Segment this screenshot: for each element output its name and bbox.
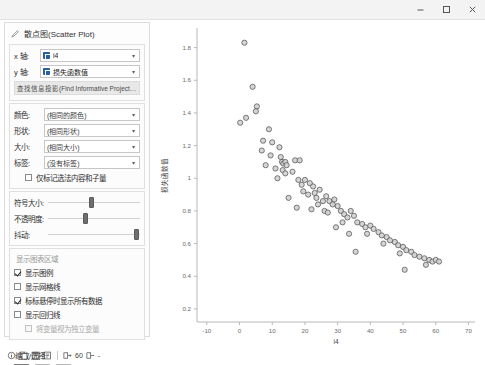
scatter-point[interactable] (364, 231, 369, 236)
scatter-point[interactable] (436, 259, 441, 264)
scatter-point[interactable] (417, 254, 422, 259)
label-only-selected-checkbox[interactable]: 仅标记选法内容和子量 (25, 172, 140, 183)
minimize-icon[interactable] (407, 0, 433, 19)
x-tick-label: 20 (301, 327, 308, 334)
x-tick-label: 40 (367, 327, 374, 334)
scatter-point[interactable] (259, 148, 264, 153)
save-icon[interactable] (31, 351, 40, 360)
scatter-point[interactable] (325, 210, 330, 215)
scatter-point[interactable] (335, 203, 340, 208)
scatter-point[interactable] (423, 262, 428, 267)
y-tick-label: 0.2 (182, 305, 191, 312)
symbol-size-slider[interactable] (48, 197, 140, 208)
scatter-plot-area[interactable]: 0.20.40.60.811.21.41.61.8-10010203040506… (155, 22, 481, 358)
slider-handle[interactable] (134, 229, 139, 240)
chevron-down-icon: ▾ (129, 144, 137, 150)
scatter-point[interactable] (345, 215, 350, 220)
find-informative-projections-button[interactable]: 查找信息投影(Find Informative Projections) (14, 81, 140, 95)
scatter-point[interactable] (243, 115, 248, 120)
show-regression-line-checkbox[interactable]: 显示回归线 (14, 309, 140, 320)
color-select[interactable]: (相同的颜色) ▾ (44, 108, 140, 121)
scatter-point[interactable] (277, 145, 282, 150)
scatter-point[interactable] (346, 231, 351, 236)
scatter-point[interactable] (250, 84, 255, 89)
scatter-point[interactable] (311, 184, 316, 189)
close-icon[interactable] (459, 0, 485, 19)
scatter-point[interactable] (254, 104, 259, 109)
scatter-point[interactable] (268, 153, 273, 158)
scatter-point[interactable] (275, 176, 280, 181)
scatter-point[interactable] (290, 169, 295, 174)
scatter-point[interactable] (273, 166, 278, 171)
scatter-point[interactable] (371, 226, 376, 231)
scatter-point[interactable] (422, 256, 427, 261)
size-select[interactable]: (相同大小) ▾ (44, 140, 140, 153)
scatter-point[interactable] (312, 190, 317, 195)
label-row: 标签: (没有标签) ▾ (14, 156, 140, 169)
scatter-chart[interactable]: 0.20.40.60.811.21.41.61.8-10010203040506… (155, 22, 481, 358)
checkbox-box (14, 297, 21, 304)
scatter-point[interactable] (302, 177, 307, 182)
scatter-point[interactable] (317, 187, 322, 192)
scatter-point[interactable] (396, 243, 401, 248)
slider-handle[interactable] (89, 197, 94, 208)
scatter-point[interactable] (379, 233, 384, 238)
scatter-point[interactable] (283, 171, 288, 176)
scatter-point[interactable] (238, 120, 243, 125)
scatter-point[interactable] (314, 195, 319, 200)
scatter-point[interactable] (412, 252, 417, 257)
opacity-slider[interactable] (48, 213, 140, 224)
show-all-on-hover-checkbox[interactable]: 标标悬停时显示所有数据 (14, 295, 140, 306)
maximize-icon[interactable] (433, 0, 459, 19)
x-tick-label: 70 (465, 327, 472, 334)
scatter-point[interactable] (315, 202, 320, 207)
panel-title: 散点图(Scatter Plot) (5, 23, 149, 42)
scatter-point[interactable] (404, 248, 409, 253)
scatter-point[interactable] (333, 225, 338, 230)
shape-select[interactable]: (相同形状) ▾ (44, 124, 140, 137)
scatter-point[interactable] (353, 249, 358, 254)
jitter-slider[interactable] (48, 229, 140, 240)
copy-icon[interactable] (19, 351, 28, 360)
show-legend-checkbox[interactable]: 显示图例 (14, 267, 140, 278)
scatter-point[interactable] (301, 189, 306, 194)
scatter-point[interactable] (306, 192, 311, 197)
scatter-point[interactable] (324, 194, 329, 199)
report-icon[interactable] (43, 351, 52, 360)
panel-title-text: 散点图(Scatter Plot) (24, 28, 95, 39)
scatter-point[interactable] (263, 163, 268, 168)
scatter-point[interactable] (266, 127, 271, 132)
scatter-point[interactable] (294, 205, 299, 210)
scatter-point[interactable] (351, 213, 356, 218)
scatter-point[interactable] (242, 40, 247, 45)
scatter-point[interactable] (363, 225, 368, 230)
scatter-point[interactable] (286, 195, 291, 200)
scatter-point[interactable] (397, 251, 402, 256)
info-icon[interactable] (7, 351, 16, 360)
slider-handle[interactable] (83, 213, 88, 224)
scatter-point[interactable] (402, 267, 407, 272)
scatter-point[interactable] (296, 177, 301, 182)
y-axis-select[interactable]: 损失函数值 ▾ (40, 65, 140, 78)
scatter-point[interactable] (309, 207, 314, 212)
scatter-point[interactable] (332, 197, 337, 202)
scatter-point[interactable] (320, 199, 325, 204)
scatter-point[interactable] (340, 220, 345, 225)
scatter-point[interactable] (270, 140, 275, 145)
scatter-point[interactable] (387, 238, 392, 243)
scatter-point[interactable] (253, 109, 258, 114)
x-axis-select[interactable]: i4 ▾ (40, 49, 140, 62)
scatter-point[interactable] (297, 158, 302, 163)
label-select[interactable]: (没有标签) ▾ (44, 156, 140, 169)
scatter-point[interactable] (260, 138, 265, 143)
x-axis-row: x 轴: i4 ▾ (14, 49, 140, 62)
scatter-point[interactable] (278, 154, 283, 159)
x-tick-label: 50 (400, 327, 407, 334)
scatter-point[interactable] (330, 202, 335, 207)
scatter-point[interactable] (348, 208, 353, 213)
scatter-point[interactable] (299, 182, 304, 187)
show-gridlines-checkbox[interactable]: 显示网格线 (14, 281, 140, 292)
scatter-point[interactable] (355, 220, 360, 225)
scatter-point[interactable] (284, 163, 289, 168)
scatter-point[interactable] (381, 241, 386, 246)
